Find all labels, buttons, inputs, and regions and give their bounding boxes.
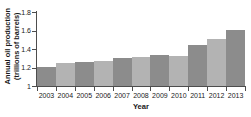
y-axis-tick-label: 1.2 <box>12 64 31 71</box>
bar <box>56 63 75 86</box>
y-axis-tick-label: 1.6 <box>12 27 31 34</box>
bar <box>207 39 226 86</box>
x-axis-tick-label: 2008 <box>132 92 151 100</box>
x-axis-title: Year <box>37 102 245 111</box>
x-axis-tick <box>188 87 189 91</box>
x-axis-tick <box>245 87 246 91</box>
x-axis-line <box>36 86 246 87</box>
x-axis-tick <box>207 87 208 91</box>
bar <box>188 45 207 86</box>
y-axis-title-line-1: Annual oil production <box>3 8 12 84</box>
bar <box>75 62 94 86</box>
x-axis-tick-label: 2010 <box>169 92 188 100</box>
bar <box>94 61 113 86</box>
y-axis-tick-label: 1.8 <box>12 9 31 16</box>
y-axis-tick <box>32 86 36 87</box>
x-axis-tick-label: 2012 <box>207 92 226 100</box>
x-axis-tick-label: 2005 <box>75 92 94 100</box>
bar <box>37 67 56 86</box>
bar <box>132 57 151 86</box>
bar <box>169 56 188 86</box>
x-axis-tick-label: 2013 <box>226 92 245 100</box>
x-axis-tick-label: 2011 <box>188 92 207 100</box>
bar <box>150 55 169 86</box>
x-axis-tick <box>37 87 38 91</box>
x-axis-tick <box>113 87 114 91</box>
bar <box>226 30 245 86</box>
x-axis-tick-label: 2004 <box>56 92 75 100</box>
x-axis-tick-label: 2003 <box>37 92 56 100</box>
y-axis-tick <box>32 12 36 13</box>
y-axis-tick <box>32 31 36 32</box>
x-axis-tick <box>132 87 133 91</box>
x-axis-tick <box>56 87 57 91</box>
plot-area <box>37 12 245 86</box>
x-axis-tick <box>150 87 151 91</box>
y-axis-tick <box>32 49 36 50</box>
x-axis-tick <box>94 87 95 91</box>
y-axis-tick-label: 1 <box>12 83 31 90</box>
bar <box>113 58 132 86</box>
bar-chart: Annual oil production (trillions of barr… <box>0 0 251 117</box>
y-axis-tick <box>32 68 36 69</box>
x-axis-tick <box>75 87 76 91</box>
y-axis-tick-label: 1.4 <box>12 46 31 53</box>
x-axis-tick-label: 2007 <box>113 92 132 100</box>
x-axis-tick <box>226 87 227 91</box>
x-axis-tick-label: 2009 <box>150 92 169 100</box>
x-axis-tick <box>169 87 170 91</box>
x-axis-tick-label: 2006 <box>94 92 113 100</box>
